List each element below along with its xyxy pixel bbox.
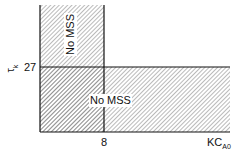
y-tick-27: 27 [24,62,36,73]
x-axis-label: KCA0 [207,137,231,150]
hatched-region-horizontal [40,67,230,132]
region-label-horizontal: No MSS [89,94,132,107]
x-tick-8: 8 [101,137,107,148]
y-axis-label: τk [5,65,18,73]
diagram-canvas [0,0,240,154]
region-label-vertical: No MSS [64,13,77,56]
